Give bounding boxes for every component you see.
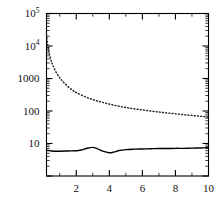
x-tick-label: 10 [203,182,215,194]
x-tick-label: 4 [107,182,113,194]
series-dotted-curve [47,35,209,117]
x-tick-label: 6 [140,182,146,194]
chart-figure: 101001000104105 246810 [0,0,224,208]
plot-frame [47,14,209,177]
y-axis-tick-labels: 101001000104105 [18,6,41,150]
x-axis-tick-labels: 246810 [74,182,215,194]
x-tick-label: 2 [74,182,80,194]
y-tick-label: 105 [25,6,40,20]
axis-ticks [47,14,209,177]
y-tick-label: 1000 [18,72,41,84]
chart-plot-svg: 101001000104105 246810 [0,0,224,208]
y-tick-label: 10 [29,137,41,149]
series-solid-curve [47,147,209,152]
y-tick-label: 104 [25,38,40,52]
y-tick-label: 100 [23,105,40,117]
x-tick-label: 8 [173,182,179,194]
